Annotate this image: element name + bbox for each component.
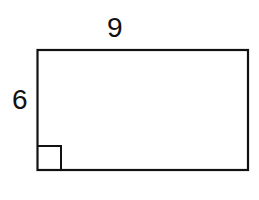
- width-label: 9: [107, 14, 123, 42]
- rectangle-figure: [0, 0, 259, 200]
- right-angle-marker-icon: [38, 146, 62, 170]
- rectangle-outline: [38, 50, 249, 170]
- rectangle-diagram: 9 6: [0, 0, 259, 200]
- height-label: 6: [12, 86, 28, 114]
